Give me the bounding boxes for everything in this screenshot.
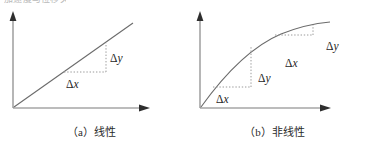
delta-y-variable: y [117, 52, 122, 64]
delta-y-variable: y [265, 72, 270, 84]
delta-x-variable: x [73, 78, 78, 90]
x-axis-a [13, 105, 150, 112]
delta-y-label-b-upper: Δy [326, 40, 339, 52]
delta-y-label-b-lower: Δy [258, 72, 271, 84]
caption-linear: （a）线性 [0, 126, 183, 139]
linear-curve [14, 23, 133, 107]
delta-y-label-a: Δy [110, 52, 123, 64]
delta-x-label-b-upper: Δx [285, 57, 298, 69]
linear-plot-svg [0, 0, 183, 147]
y-axis-b [197, 11, 204, 108]
x-axis-b [200, 105, 331, 112]
delta-x-variable: x [292, 57, 297, 69]
y-axis-a [10, 11, 17, 108]
figure-root: 加速度与位移关系 Δy Δx （a） [0, 0, 366, 147]
delta-x-variable: x [223, 93, 228, 105]
delta-x-label-a: Δx [66, 78, 79, 90]
delta-y-variable: y [333, 40, 338, 52]
nonlinear-plot-svg [183, 0, 366, 147]
caption-nonlinear: （b）非线性 [183, 126, 366, 139]
panel-nonlinear: Δx Δy Δx Δy （b）非线性 [183, 0, 366, 147]
delta-x-label-b-lower: Δx [216, 93, 229, 105]
panel-linear: Δy Δx （a）线性 [0, 0, 183, 147]
